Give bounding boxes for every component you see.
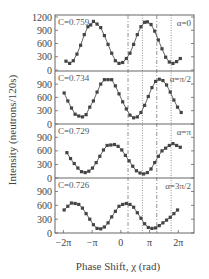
y-tick-label: 0 bbox=[47, 119, 52, 130]
data-point bbox=[110, 215, 113, 218]
data-point bbox=[136, 33, 139, 36]
data-point bbox=[76, 166, 79, 169]
data-point bbox=[146, 20, 149, 23]
data-point bbox=[89, 23, 92, 26]
data-point bbox=[165, 218, 168, 221]
data-point bbox=[125, 57, 128, 60]
data-point bbox=[95, 90, 98, 93]
data-point bbox=[164, 147, 167, 150]
y-tick-label: 600 bbox=[37, 200, 52, 211]
data-point bbox=[157, 38, 160, 41]
data-point bbox=[75, 53, 78, 56]
y-tick-label: 900 bbox=[37, 79, 52, 90]
data-point bbox=[169, 216, 172, 219]
data-point bbox=[157, 155, 160, 158]
data-point bbox=[171, 142, 174, 145]
data-point bbox=[121, 61, 124, 64]
y-tick-label: 0 bbox=[47, 228, 52, 239]
data-point bbox=[132, 116, 135, 119]
data-point bbox=[66, 205, 69, 208]
data-point bbox=[69, 157, 72, 160]
data-point bbox=[147, 226, 150, 229]
data-point bbox=[124, 154, 127, 157]
data-point bbox=[80, 170, 83, 173]
data-point bbox=[143, 21, 146, 24]
data-point bbox=[180, 111, 183, 114]
x-tick-label: π bbox=[147, 237, 152, 248]
data-point bbox=[153, 30, 156, 33]
data-point bbox=[103, 34, 106, 37]
data-point bbox=[176, 208, 179, 211]
y-tick-label: 600 bbox=[37, 92, 52, 103]
data-point bbox=[165, 83, 168, 86]
data-point bbox=[128, 114, 131, 117]
data-point bbox=[102, 148, 105, 151]
data-point bbox=[121, 203, 124, 206]
data-point bbox=[103, 78, 106, 81]
data-point bbox=[106, 78, 109, 81]
data-point bbox=[73, 162, 76, 165]
data-point bbox=[175, 144, 178, 147]
x-tick-label: 2π bbox=[173, 237, 183, 248]
y-tick-label: 300 bbox=[37, 214, 52, 225]
data-point bbox=[142, 172, 145, 175]
data-point bbox=[143, 222, 146, 225]
data-point bbox=[168, 60, 171, 63]
data-point bbox=[92, 223, 95, 226]
data-point bbox=[127, 159, 130, 162]
data-point bbox=[81, 115, 84, 118]
data-point bbox=[77, 114, 80, 117]
data-point bbox=[98, 155, 101, 158]
data-point bbox=[131, 165, 134, 168]
data-point bbox=[66, 99, 69, 102]
alpha-label: α=π bbox=[177, 127, 192, 137]
chart: 03006009001200C=0.759α=00300600900C=0.73… bbox=[0, 0, 209, 279]
data-point bbox=[106, 221, 109, 224]
data-point bbox=[143, 104, 146, 107]
data-point bbox=[117, 205, 120, 208]
data-point bbox=[146, 171, 149, 174]
y-tick-label: 0 bbox=[47, 173, 52, 184]
y-tick-label: 0 bbox=[47, 65, 52, 76]
data-point bbox=[150, 227, 153, 230]
data-point bbox=[70, 201, 73, 204]
data-point bbox=[95, 22, 98, 25]
data-point bbox=[176, 106, 179, 109]
data-point bbox=[164, 56, 167, 59]
data-point bbox=[160, 47, 163, 50]
data-point bbox=[84, 212, 87, 215]
data-point bbox=[179, 146, 182, 149]
data-point bbox=[136, 115, 139, 118]
data-point bbox=[172, 98, 175, 101]
y-tick-label: 900 bbox=[37, 132, 52, 143]
data-point bbox=[74, 113, 77, 116]
data-point bbox=[68, 62, 71, 65]
data-point bbox=[153, 161, 156, 164]
fit-curve bbox=[64, 79, 181, 118]
data-point bbox=[72, 59, 75, 62]
x-axis-title: Phase Shift, χ (rad) bbox=[76, 260, 161, 273]
data-point bbox=[70, 106, 73, 109]
data-point bbox=[117, 62, 120, 65]
data-point bbox=[81, 207, 84, 210]
y-axis-title: Intensity (neutrons/120s) bbox=[6, 75, 19, 186]
data-point bbox=[116, 145, 119, 148]
data-point bbox=[149, 23, 152, 26]
y-tick-label: 300 bbox=[37, 51, 52, 62]
data-point bbox=[83, 33, 86, 36]
data-point bbox=[136, 211, 139, 214]
data-point bbox=[161, 221, 164, 224]
data-point bbox=[139, 111, 142, 114]
y-tick-label: 900 bbox=[37, 25, 52, 36]
data-point bbox=[154, 226, 157, 229]
data-point bbox=[109, 143, 112, 146]
data-point bbox=[120, 148, 123, 151]
panel-2: 0300600900C=0.729α=π bbox=[37, 124, 194, 184]
panel-3: 0300600900C=0.726α=3π/2 bbox=[37, 178, 194, 239]
data-point bbox=[179, 57, 182, 60]
data-point bbox=[84, 113, 87, 116]
x-tick-label: −2π bbox=[56, 237, 72, 248]
data-point bbox=[113, 143, 116, 146]
data-point bbox=[87, 170, 90, 173]
data-point bbox=[125, 107, 128, 110]
